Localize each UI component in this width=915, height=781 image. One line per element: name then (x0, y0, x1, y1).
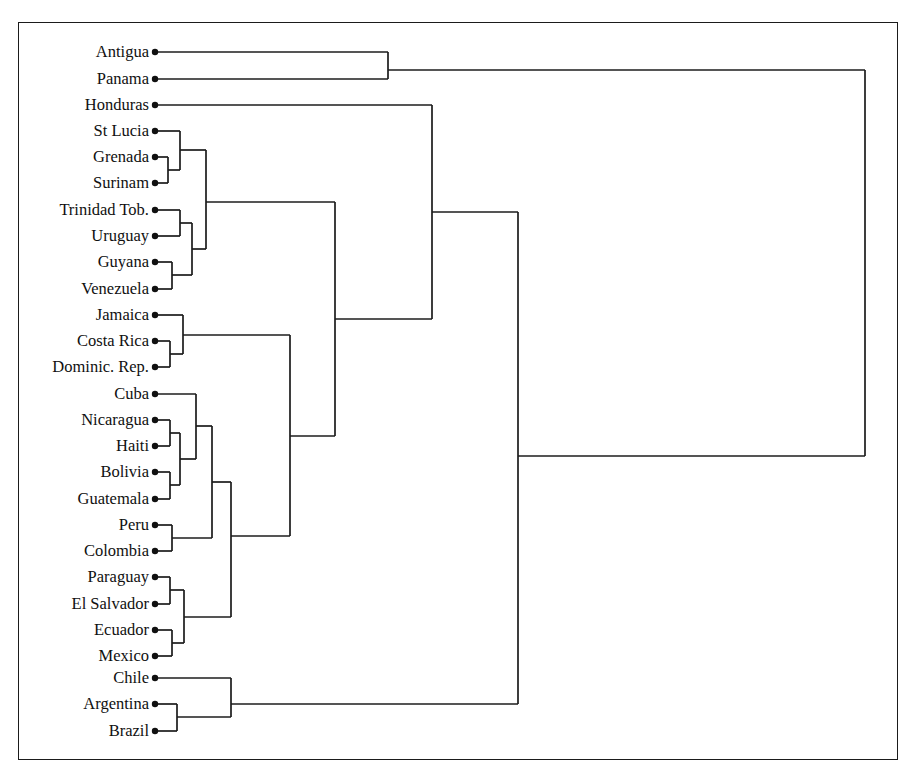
leaf-label-jamaica: Jamaica (96, 305, 150, 324)
leaf-label-venezuela: Venezuela (81, 279, 149, 298)
leaf-dot-nicaragua[interactable] (152, 417, 158, 423)
leaf-dot-honduras[interactable] (152, 102, 158, 108)
leaf-dot-guatemala[interactable] (152, 496, 158, 502)
leaf-label-dominic-rep: Dominic. Rep. (52, 357, 149, 376)
leaf-label-chile: Chile (113, 668, 149, 687)
leaf-dot-ecuador[interactable] (152, 627, 158, 633)
leaf-dot-costa-rica[interactable] (152, 338, 158, 344)
dendrogram-plot: AntiguaPanamaHondurasSt LuciaGrenadaSuri… (0, 0, 915, 781)
leaf-dot-paraguay[interactable] (152, 574, 158, 580)
leaf-label-trinidad-tob: Trinidad Tob. (59, 200, 149, 219)
leaf-dot-chile[interactable] (152, 675, 158, 681)
leaf-dot-bolivia[interactable] (152, 469, 158, 475)
leaf-label-honduras: Honduras (85, 95, 149, 114)
leaf-label-uruguay: Uruguay (91, 226, 149, 245)
leaf-dot-st-lucia[interactable] (152, 128, 158, 134)
leaf-dot-haiti[interactable] (152, 443, 158, 449)
leaf-label-haiti: Haiti (116, 436, 149, 455)
leaf-dot-brazil[interactable] (152, 728, 158, 734)
leaf-label-nicaragua: Nicaragua (81, 410, 149, 429)
leaf-label-costa-rica: Costa Rica (77, 331, 150, 350)
leaf-dot-peru[interactable] (152, 522, 158, 528)
leaf-label-cuba: Cuba (114, 384, 150, 403)
leaf-dot-grenada[interactable] (152, 154, 158, 160)
leaf-label-colombia: Colombia (84, 541, 150, 560)
leaf-dot-jamaica[interactable] (152, 312, 158, 318)
leaf-label-grenada: Grenada (93, 147, 150, 166)
leaf-dot-panama[interactable] (152, 76, 158, 82)
leaf-label-bolivia: Bolivia (100, 462, 149, 481)
leaf-dot-cuba[interactable] (152, 391, 158, 397)
leaf-label-surinam: Surinam (93, 173, 149, 192)
dendrogram-links (155, 52, 865, 731)
leaf-dot-antigua[interactable] (152, 49, 158, 55)
leaf-label-paraguay: Paraguay (88, 567, 150, 586)
leaf-label-guyana: Guyana (98, 252, 150, 271)
leaf-label-mexico: Mexico (99, 646, 149, 665)
leaf-dot-dominic-rep[interactable] (152, 364, 158, 370)
leaf-label-peru: Peru (119, 515, 149, 534)
leaf-dot-mexico[interactable] (152, 653, 158, 659)
leaf-dot-el-salvador[interactable] (152, 601, 158, 607)
leaf-label-el-salvador: El Salvador (72, 594, 150, 613)
leaf-label-argentina: Argentina (83, 694, 149, 713)
leaf-dot-colombia[interactable] (152, 548, 158, 554)
leaf-dot-uruguay[interactable] (152, 233, 158, 239)
leaf-label-brazil: Brazil (109, 721, 150, 740)
leaf-label-st-lucia: St Lucia (94, 121, 150, 140)
leaf-dot-venezuela[interactable] (152, 286, 158, 292)
leaf-label-guatemala: Guatemala (78, 489, 150, 508)
leaf-dot-surinam[interactable] (152, 180, 158, 186)
dendrogram-leaves: AntiguaPanamaHondurasSt LuciaGrenadaSuri… (52, 42, 158, 740)
leaf-dot-guyana[interactable] (152, 259, 158, 265)
leaf-label-ecuador: Ecuador (94, 620, 149, 639)
leaf-label-antigua: Antigua (96, 42, 150, 61)
leaf-dot-trinidad-tob[interactable] (152, 207, 158, 213)
dendrogram-figure: AntiguaPanamaHondurasSt LuciaGrenadaSuri… (0, 0, 915, 781)
leaf-dot-argentina[interactable] (152, 701, 158, 707)
leaf-label-panama: Panama (97, 69, 150, 88)
